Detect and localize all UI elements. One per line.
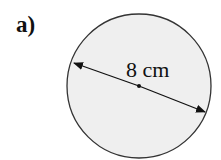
center-point [137, 84, 141, 88]
diameter-label: 8 cm [126, 57, 169, 82]
circle-diagram: 8 cm [0, 0, 221, 160]
